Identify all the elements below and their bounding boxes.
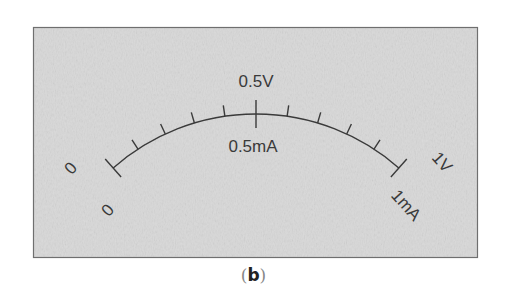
figure-caption: (b) xyxy=(0,265,507,286)
meter-scale-diagram: 0.5V 0.5mA 0 0 1V 1mA xyxy=(0,0,507,306)
caption-close-paren: ) xyxy=(260,265,267,285)
caption-letter: b xyxy=(247,265,259,285)
voltage-mid-label: 0.5V xyxy=(239,72,275,91)
current-mid-label: 0.5mA xyxy=(228,137,278,156)
